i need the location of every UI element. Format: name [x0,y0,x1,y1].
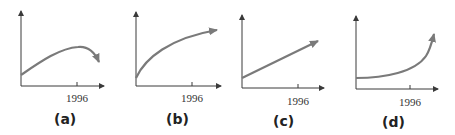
curve [136,30,217,78]
curve [21,47,99,75]
panel-label: (d) [382,114,405,130]
panel-label: (b) [166,111,189,127]
tick-label: 1996 [399,96,422,108]
panel-label: (a) [54,111,76,127]
panel-b: 1996 (b) [136,12,221,127]
panel-c: 1996 (c) [242,15,324,129]
panel-a: 1996 (a) [21,11,104,127]
curve [356,34,434,78]
tick-label: 1996 [181,92,204,104]
tick-label: 1996 [287,95,310,107]
four-graphs-diagram: 1996 (a) 1996 (b) 1996 (c) 1996 (d) [0,0,455,135]
panel-d: 1996 (d) [356,16,438,130]
line [242,41,318,78]
panel-label: (c) [273,113,294,129]
tick-label: 1996 [66,92,89,104]
